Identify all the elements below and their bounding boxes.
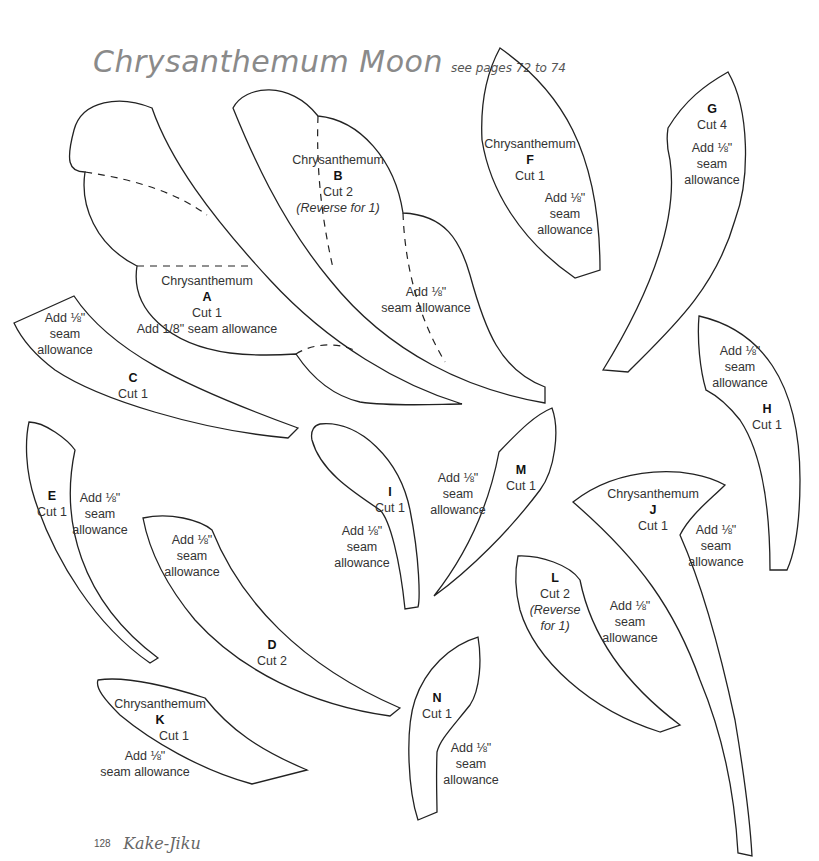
seam-line-1: Add ⅛" xyxy=(443,740,499,756)
piece-e-outline xyxy=(27,422,158,663)
seam-line-2: seam xyxy=(537,206,593,222)
piece-h-seam-label: Add ⅛" seam allowance xyxy=(712,343,768,391)
piece-i-cut: Cut 1 xyxy=(375,500,405,516)
seam-line-2: seam xyxy=(430,486,486,502)
seam-line-1: Add ⅛" xyxy=(72,490,128,506)
piece-a-fold-line-3 xyxy=(296,345,358,354)
seam-line-2: seam xyxy=(164,548,220,564)
piece-f-cut: Cut 1 xyxy=(484,168,576,184)
piece-m-seam-label: Add ⅛" seam allowance xyxy=(430,470,486,518)
piece-e-label: E Cut 1 xyxy=(37,488,67,520)
piece-g-cut: Cut 4 xyxy=(697,117,727,133)
piece-c-cut: Cut 1 xyxy=(118,386,148,402)
seam-line-2: seam xyxy=(334,539,390,555)
seam-line-1: Add ⅛" xyxy=(537,190,593,206)
seam-line-3: allowance xyxy=(537,222,593,238)
piece-e-letter: E xyxy=(37,488,67,504)
piece-j-letter: J xyxy=(607,502,699,518)
seam-line-2: seam allowance xyxy=(381,300,471,316)
piece-b-note: (Reverse for 1) xyxy=(292,200,384,216)
piece-b-cut: Cut 2 xyxy=(292,184,384,200)
seam-line-2: seam xyxy=(443,756,499,772)
seam-line-3: allowance xyxy=(164,564,220,580)
seam-line-3: allowance xyxy=(334,555,390,571)
seam-line-3: allowance xyxy=(712,375,768,391)
seam-line-1: Add ⅛" xyxy=(334,523,390,539)
seam-line-1: Add ⅛" xyxy=(37,310,93,326)
piece-f-seam-label: Add ⅛" seam allowance xyxy=(537,190,593,238)
seam-line-1: Add ⅛" xyxy=(100,748,190,764)
piece-j-seam-label: Add ⅛" seam allowance xyxy=(688,522,744,570)
piece-c-label: C Cut 1 xyxy=(118,370,148,402)
piece-f-letter: F xyxy=(484,152,576,168)
piece-n-seam-label: Add ⅛" seam allowance xyxy=(443,740,499,788)
seam-line-2: seam xyxy=(602,614,658,630)
piece-l-seam-label: Add ⅛" seam allowance xyxy=(602,598,658,646)
piece-e-cut: Cut 1 xyxy=(37,504,67,520)
piece-m-letter: M xyxy=(506,462,536,478)
piece-k-label: Chrysanthemum K Cut 1 xyxy=(114,696,206,744)
seam-line-2: seam allowance xyxy=(100,764,190,780)
piece-n-letter: N xyxy=(422,690,452,706)
piece-i-label: I Cut 1 xyxy=(375,484,405,516)
seam-line-2: seam xyxy=(712,359,768,375)
seam-line-1: Add ⅛" xyxy=(381,284,471,300)
piece-m-label: M Cut 1 xyxy=(506,462,536,494)
seam-line-3: allowance xyxy=(430,502,486,518)
piece-l-label: L Cut 2 (Reverse for 1) xyxy=(530,570,581,634)
piece-a-outline xyxy=(69,101,462,405)
piece-j-name: Chrysanthemum xyxy=(607,486,699,502)
piece-i-seam-label: Add ⅛" seam allowance xyxy=(334,523,390,571)
piece-l-note-1: (Reverse xyxy=(530,602,581,618)
piece-l-note-2: for 1) xyxy=(530,618,581,634)
piece-b-label: Chrysanthemum B Cut 2 (Reverse for 1) xyxy=(292,152,384,216)
piece-e-seam-label: Add ⅛" seam allowance xyxy=(72,490,128,538)
piece-g-letter: G xyxy=(697,101,727,117)
piece-a-label: Chrysanthemum A Cut 1 Add 1/8" seam allo… xyxy=(137,273,278,337)
piece-l-cut: Cut 2 xyxy=(530,586,581,602)
piece-d-cut: Cut 2 xyxy=(257,653,287,669)
piece-k-name: Chrysanthemum xyxy=(114,696,206,712)
seam-line-3: allowance xyxy=(443,772,499,788)
seam-line-3: allowance xyxy=(72,522,128,538)
seam-line-1: Add ⅛" xyxy=(688,522,744,538)
seam-line-1: Add ⅛" xyxy=(602,598,658,614)
piece-m-cut: Cut 1 xyxy=(506,478,536,494)
piece-a-cut: Cut 1 xyxy=(137,305,278,321)
seam-line-1: Add ⅛" xyxy=(712,343,768,359)
piece-n-outline xyxy=(409,637,480,820)
piece-j-cut: Cut 1 xyxy=(607,518,699,534)
piece-g-seam-label: Add ⅛" seam allowance xyxy=(684,140,740,188)
page-footer: 128 Kake-Jiku xyxy=(94,834,201,853)
seam-line-1: Add ⅛" xyxy=(430,470,486,486)
piece-k-seam-label: Add ⅛" seam allowance xyxy=(100,748,190,780)
seam-line-3: allowance xyxy=(602,630,658,646)
piece-k-cut: Cut 1 xyxy=(114,728,206,744)
seam-line-2: seam xyxy=(688,538,744,554)
page-number: 128 xyxy=(94,838,111,849)
piece-a-letter: A xyxy=(137,289,278,305)
piece-g-label: G Cut 4 xyxy=(697,101,727,133)
piece-h-label: H Cut 1 xyxy=(752,401,782,433)
piece-i-letter: I xyxy=(375,484,405,500)
piece-a-seam: Add 1/8" seam allowance xyxy=(137,321,278,337)
seam-line-2: seam xyxy=(72,506,128,522)
piece-h-letter: H xyxy=(752,401,782,417)
piece-c-letter: C xyxy=(118,370,148,386)
piece-n-cut: Cut 1 xyxy=(422,706,452,722)
piece-l-letter: L xyxy=(530,570,581,586)
seam-line-3: allowance xyxy=(684,172,740,188)
piece-f-name: Chrysanthemum xyxy=(484,136,576,152)
piece-k-letter: K xyxy=(114,712,206,728)
piece-b-name: Chrysanthemum xyxy=(292,152,384,168)
seam-line-1: Add ⅛" xyxy=(684,140,740,156)
piece-d-letter: D xyxy=(257,637,287,653)
piece-b-letter: B xyxy=(292,168,384,184)
piece-c-seam-label: Add ⅛" seam allowance xyxy=(37,310,93,358)
piece-h-cut: Cut 1 xyxy=(752,417,782,433)
piece-b-seam-label: Add ⅛" seam allowance xyxy=(381,284,471,316)
piece-d-label: D Cut 2 xyxy=(257,637,287,669)
piece-f-label: Chrysanthemum F Cut 1 xyxy=(484,136,576,184)
seam-line-3: allowance xyxy=(688,554,744,570)
book-title: Kake-Jiku xyxy=(123,834,201,853)
